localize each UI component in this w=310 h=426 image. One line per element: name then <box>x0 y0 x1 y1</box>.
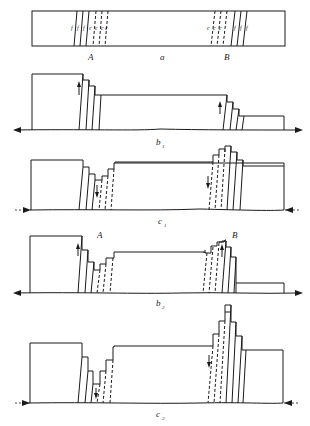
compression-arrow-right-icon <box>22 400 30 406</box>
panel-label-c2-sub: 2 <box>162 416 165 421</box>
panel-label-b2-sub: 2 <box>162 305 165 310</box>
compression-arrow-left-icon <box>285 207 293 213</box>
arrow-up-icon <box>76 243 80 256</box>
panel-label-c1-sub: 1 <box>164 223 167 228</box>
zone-a-faults: f f f c c c c <box>71 11 108 46</box>
fault-block-diagram: f f f c c c c c c c f f f A a B <box>0 0 310 426</box>
arrow-up-icon <box>218 101 222 114</box>
fault-label-c: c <box>207 25 210 31</box>
arrow-down-icon <box>94 388 98 399</box>
zone-label-b: B <box>224 52 230 62</box>
panel-b1: b 1 <box>13 74 303 149</box>
panel-a: f f f c c c c c c c f f f A a B <box>32 11 285 62</box>
panel-label-b1: b <box>156 137 161 147</box>
panel-label-b1-sub: 1 <box>162 144 165 149</box>
extension-arrow-left-icon <box>13 127 21 133</box>
compression-arrow-right-icon <box>23 207 31 213</box>
extension-arrow-right-icon <box>295 290 303 296</box>
zone-label-a: A <box>96 230 103 240</box>
arrow-down-icon <box>95 185 99 198</box>
panel-label-c1: c <box>158 216 162 226</box>
zone-b-faults: c c c f f f <box>207 11 249 46</box>
extension-arrow-right-icon <box>295 127 303 133</box>
fault-label-c: c <box>101 25 104 31</box>
panel-label-a: a <box>160 52 165 62</box>
fault-label-f: f <box>71 25 74 31</box>
arrow-down-icon <box>206 176 210 189</box>
fault-label-f: f <box>240 25 243 31</box>
fault-label-f: f <box>246 25 249 31</box>
arrow-up-icon <box>220 244 224 257</box>
fault-label-c: c <box>105 25 108 31</box>
panel-label-b2: b <box>156 298 161 308</box>
panel-c1: c 1 <box>15 146 300 228</box>
fault-label-c: c <box>213 25 216 31</box>
zone-label-b: B <box>232 230 238 240</box>
fault-label-f: f <box>234 25 237 31</box>
panel-c2: c 2 <box>15 305 300 421</box>
fault-label-f: f <box>83 25 86 31</box>
panel-label-c2: c <box>156 409 160 419</box>
arrow-up-icon <box>77 81 81 95</box>
fault-label-c: c <box>89 25 92 31</box>
fault-label-c: c <box>219 25 222 31</box>
fault-label-c: c <box>95 25 98 31</box>
arrow-down-icon <box>207 355 211 368</box>
fault-label-f: f <box>77 25 80 31</box>
panel-b2: A B <box>13 230 303 310</box>
compression-arrow-left-icon <box>284 400 292 406</box>
extension-arrow-left-icon <box>13 290 21 296</box>
zone-label-a: A <box>87 52 94 62</box>
